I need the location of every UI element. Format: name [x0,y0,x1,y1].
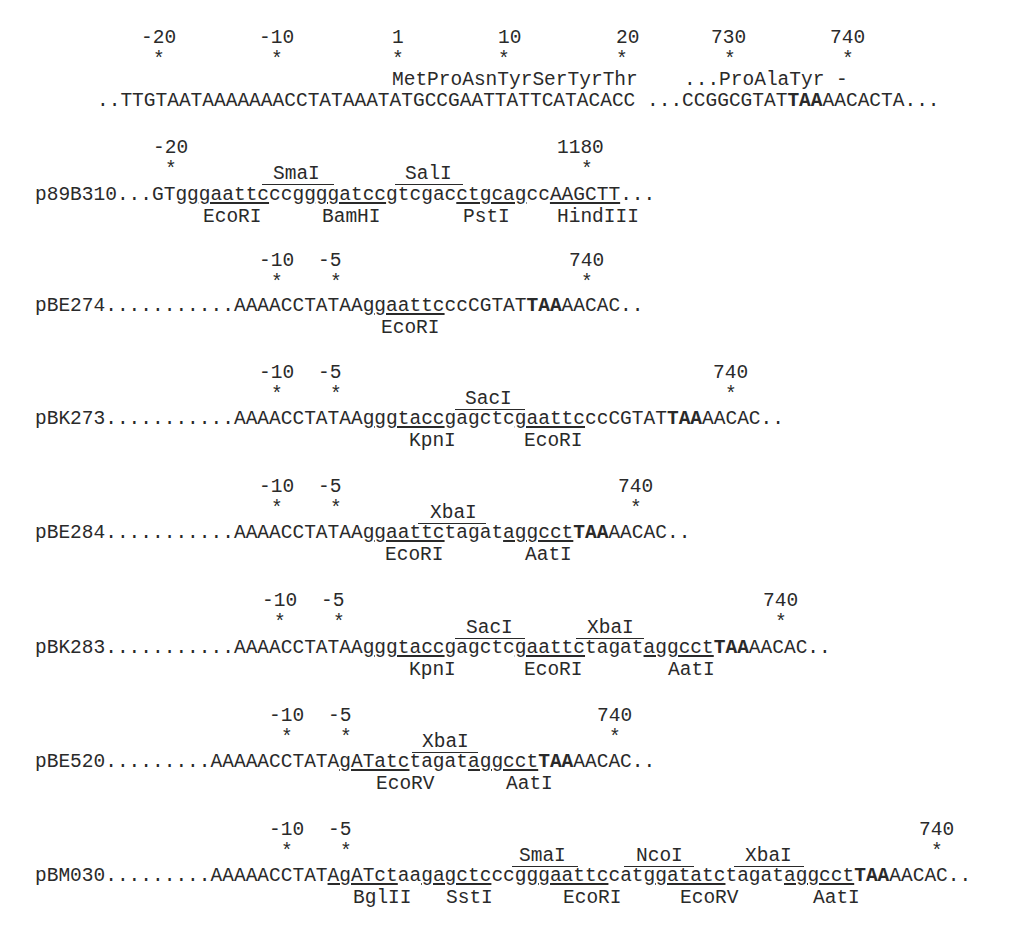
reference-sequence: ..TTGTAATAAAAAAACCTATAAATATGCCGAATTATTCA… [97,91,940,111]
site-label-above: XbaI [430,503,477,523]
restriction-site: AAGCTT [550,184,620,206]
construct-sequence: pBE274...........AAAACCTATAAggaattcccCGT… [35,296,644,316]
position-marker-icon: * [271,499,283,519]
sequence-part: cc [527,184,550,206]
sequence-part: aa [398,865,421,887]
position-marker-icon: * [271,50,283,70]
position-label: -5 [321,591,344,611]
site-label-above: SacI [466,618,513,638]
sequence-part: ..TTGTAATAAAAAAACCTATAAATATGCCGAATTATTCA… [97,90,635,112]
position-label: -5 [328,820,351,840]
site-label-above: SacI [465,389,512,409]
position-marker-icon: * [498,50,510,70]
restriction-site: aggcct [644,637,714,659]
site-label-below: EcoRI [203,207,262,227]
construct-sequence: pBM030.........AAAAACCTATAgATctaagagctcc… [35,866,971,886]
position-marker-icon: * [725,385,737,405]
sequence-part: ccCGTAT [445,295,527,317]
position-label: 740 [713,363,748,383]
site-label-above: NcoI [636,846,683,866]
stop-codon: TAA [714,637,749,659]
sequence-part: pBE284...........AAAACCTATAAg [35,522,374,544]
position-label: 740 [618,477,653,497]
stop-codon: TAA [573,522,608,544]
position-label: -10 [259,251,294,271]
sequence-part: tagat [585,637,644,659]
site-label-below: BglII [353,888,412,908]
position-label: 740 [597,706,632,726]
position-marker-icon: * [842,50,854,70]
restriction-site: ggatcc [316,184,386,206]
amino-acid-sequence-start: MetProAsnTyrSerTyrThr [392,70,638,90]
sequence-part: catg [608,865,655,887]
site-label-below: EcoRV [680,888,739,908]
sequence-part: ccgg [491,865,538,887]
site-label-below: EcoRI [524,431,583,451]
position-label: -10 [269,706,304,726]
position-marker-icon: * [333,613,345,633]
site-label-below: AatI [668,660,715,680]
position-marker-icon: * [724,50,736,70]
site-label-above: SalI [405,164,452,184]
position-marker-icon: * [340,728,352,748]
site-label-above: XbaI [422,732,469,752]
sequence-part: gtcgac [386,184,456,206]
sequence-part: tagat [725,865,784,887]
amino-acid-sequence-end: ...ProAlaTyr - [684,70,848,90]
position-marker-icon: * [581,273,593,293]
restriction-site: ggtacc [374,408,444,430]
sequence-part: pBK283...........AAAACCTATAAg [35,637,374,659]
sequence-part: AACAC.. [702,408,784,430]
site-label-below: AatI [525,545,572,565]
sequence-part: AACAC.. [889,865,971,887]
sequence-part: AACAC.. [562,295,644,317]
position-label: 740 [763,591,798,611]
construct-sequence: pBE520.........AAAAACCTATAgATatctagatagg… [35,752,655,772]
position-marker-icon: * [581,160,593,180]
construct-sequence: pBK283...........AAAACCTATAAgggtaccgagct… [35,638,831,658]
sequence-part: tagat [445,522,504,544]
restriction-site: gaattc [374,295,444,317]
sequence-part: AACAC.. [749,637,831,659]
site-label-below: EcoRI [385,545,444,565]
position-label: -5 [318,251,341,271]
restriction-site: ggtacc [374,637,444,659]
construct-sequence: pBK273...........AAAACCTATAAgggtaccgagct… [35,409,784,429]
site-label-below: EcoRI [563,888,622,908]
restriction-site: aggcct [468,751,538,773]
position-marker-icon: * [271,273,283,293]
position-marker-icon: * [330,499,342,519]
position-marker-icon: * [330,385,342,405]
construct-sequence: pBE284...........AAAACCTATAAggaattctagat… [35,523,690,543]
position-label: -10 [262,591,297,611]
position-marker-icon: * [271,385,283,405]
sequence-part: ccgg [269,184,316,206]
position-marker-icon: * [281,728,293,748]
sequence-part: gagctc [445,408,515,430]
position-label: -10 [269,820,304,840]
stop-codon: TAA [854,865,889,887]
site-label-below: EcoRI [381,318,440,338]
site-label-below: AatI [506,774,553,794]
position-marker-icon: * [340,842,352,862]
sequence-part: p89B310...GTgg [35,184,199,206]
restriction-site: AgATct [328,865,398,887]
position-label: 740 [830,28,865,48]
sequence-part: gagctc [445,637,515,659]
position-label: 10 [498,28,521,48]
construct-sequence: p89B310...GTgggaattcccggggatccgtcgacctgc… [35,185,655,205]
site-label-below: EcoRV [376,774,435,794]
sequence-part: pBM030.........AAAAACCTAT [35,865,328,887]
position-marker-icon: * [392,50,404,70]
position-marker-icon: * [165,160,177,180]
site-label-above: XbaI [587,618,634,638]
position-marker-icon: * [616,50,628,70]
restriction-site: gaattc [515,637,585,659]
site-label-above: SmaI [519,846,566,866]
site-label-above: XbaI [745,846,792,866]
site-label-below: PstI [463,207,510,227]
position-label: 20 [616,28,639,48]
position-marker-icon: * [630,499,642,519]
sequence-part: ... [620,184,655,206]
sequence-part: AACACTA... [823,90,940,112]
